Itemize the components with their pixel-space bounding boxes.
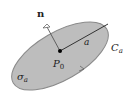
radius-label: a — [84, 37, 89, 47]
boundary-label-sub: a — [119, 47, 123, 55]
boundary-label: Ca — [111, 42, 123, 55]
center-point — [58, 49, 62, 53]
surface-label-sub: a — [24, 76, 28, 84]
normal-label: n — [37, 8, 45, 19]
center-label-sub: 0 — [60, 63, 64, 71]
diagram-canvas: n a P0 Ca σa — [0, 0, 132, 92]
normal-arrowhead-icon — [43, 24, 50, 28]
